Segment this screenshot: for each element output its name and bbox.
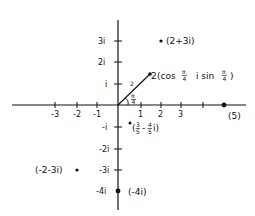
point-label-polar-pi2: π (222, 68, 226, 75)
y-tick-label-i: i (105, 80, 107, 89)
point-2-plus-3i (159, 39, 162, 42)
y-tick-label-neg3i: -3i (99, 166, 109, 175)
point-label-3-5-i: i) (153, 123, 159, 133)
point-label-5: (5) (228, 111, 241, 121)
x-tick-label-neg3: -3 (51, 110, 59, 119)
diagram-canvas: -3 -2 -1 1 2 3 3i 2i i -i -2i -3i -4i 2 … (0, 0, 255, 216)
point-label-polar-close: ) (230, 71, 234, 81)
y-tick-label-neg4i: -4i (96, 187, 106, 196)
point-label-3-5-d1: 5 (136, 128, 140, 135)
y-tick-label-neg2i: -2i (99, 145, 109, 154)
point-neg2-minus-3i (75, 168, 78, 171)
x-tick-label-neg1: -1 (93, 110, 101, 119)
point-label-3-5-open: ( (132, 123, 136, 133)
y-tick-label-neg-i: -i (102, 123, 107, 132)
complex-plane-diagram: -3 -2 -1 1 2 3 3i 2i i -i -2i -3i -4i 2 … (0, 0, 255, 216)
point-label-polar-isin: i sin (196, 71, 214, 81)
point-label-polar-four2: 4 (223, 75, 227, 82)
point-label-neg2-minus-3i: (-2-3i) (35, 165, 62, 175)
radius-label: 2 (130, 80, 134, 87)
angle-arc (125, 98, 128, 105)
x-tick-label-1: 1 (138, 110, 143, 119)
point-label-polar-pi1: π (182, 68, 186, 75)
x-tick-label-neg2: -2 (73, 110, 81, 119)
point-label-polar-four1: 4 (183, 75, 187, 82)
angle-label-four: 4 (132, 98, 136, 105)
point-label-polar-cos: (cos (157, 71, 176, 81)
point-label-3-5-minus: - (142, 123, 145, 133)
x-tick-label-3: 3 (178, 110, 183, 119)
point-label-3-5-d2: 5 (148, 128, 152, 135)
point-label-polar-coef: 2 (151, 71, 157, 81)
y-tick-label-3i: 3i (98, 37, 105, 46)
point-neg-4i (116, 189, 121, 194)
point-label-3-5-n2: 4 (148, 121, 152, 128)
point-label-neg-4i: (-4i) (128, 187, 147, 197)
x-tick-label-2: 2 (158, 110, 163, 119)
point-label-2-plus-3i: (2+3i) (166, 36, 195, 46)
point-5 (222, 103, 227, 108)
point-label-3-5-n1: 3 (136, 121, 140, 128)
y-tick-label-2i: 2i (98, 58, 105, 67)
